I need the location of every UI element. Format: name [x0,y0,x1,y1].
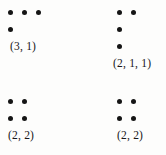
partition-label: (2, 2) [8,129,34,141]
partition-label: (2, 1, 1) [113,57,151,69]
dot [22,116,27,121]
dot-row [8,21,41,38]
ferrers-diagram-top-right: (2, 1, 1) [117,4,151,69]
ferrers-diagram-top-left: (3, 1) [8,4,41,52]
dot [117,27,122,32]
dot [131,99,136,104]
dot-row [117,21,151,38]
dot [131,116,136,121]
ferrers-diagram-figure: (3, 1) (2, 1, 1) (2, 2) (2, 2) [0,0,166,155]
ferrers-diagram-bottom-right: (2, 2) [117,93,143,141]
ferrers-diagram-bottom-left: (2, 2) [8,93,34,141]
dot-grid [8,93,34,127]
dot [22,10,27,15]
dot-grid [117,4,151,55]
dot [117,99,122,104]
dot [131,10,136,15]
dot-row [117,110,143,127]
dot [117,116,122,121]
dot [8,27,13,32]
dot-row [117,93,143,110]
dot-grid [8,4,41,38]
dot [8,99,13,104]
dot-row [8,4,41,21]
dot [22,99,27,104]
dot-row [117,4,151,21]
dot-row [117,38,151,55]
partition-label: (2, 2) [117,129,143,141]
dot-row [8,93,34,110]
partition-label: (3, 1) [10,40,41,52]
dot [8,116,13,121]
dot [8,10,13,15]
dot [117,10,122,15]
dot [36,10,41,15]
dot-grid [117,93,143,127]
dot [117,44,122,49]
dot-row [8,110,34,127]
